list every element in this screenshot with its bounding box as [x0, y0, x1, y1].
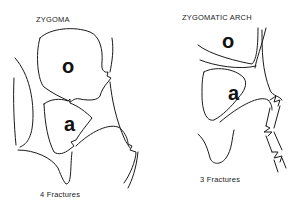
antrum-label: a	[64, 113, 76, 135]
arch-title: ZYGOMATIC ARCH	[182, 13, 252, 22]
arch-orbit-label: o	[222, 30, 234, 52]
orbit-label: o	[62, 55, 74, 77]
zygoma-caption: 4 Fractures	[40, 190, 80, 199]
arch-fracture-2	[264, 126, 272, 136]
zygoma-panel: ZYGOMA o a 4 Fractures	[14, 15, 138, 199]
arch-segment-3	[274, 158, 286, 172]
arch-segment-1	[266, 106, 280, 128]
orbit-outline	[37, 29, 111, 102]
lower-contour	[18, 150, 72, 184]
outer-contour-left	[14, 78, 16, 145]
arch-lower-contour	[198, 130, 234, 163]
arch-floor-contour	[200, 60, 256, 68]
malar-contour-upper	[110, 38, 113, 72]
zygoma-title: ZYGOMA	[36, 15, 70, 24]
malar-contour-outer	[128, 152, 138, 188]
arch-right-contour	[262, 30, 282, 100]
malar-contour-inner	[76, 126, 136, 183]
arch-fracture-3	[272, 152, 282, 162]
zygomatic-arch-panel: ZYGOMATIC ARCH o a 3 Fractures	[182, 13, 286, 184]
arch-caption: 3 Fractures	[200, 175, 240, 184]
arch-antrum-label: a	[228, 82, 240, 104]
outer-contour-left-2	[15, 58, 33, 147]
diagram-canvas: ZYGOMA o a 4 Fractures ZYGOMATIC ARCH o …	[0, 0, 299, 207]
